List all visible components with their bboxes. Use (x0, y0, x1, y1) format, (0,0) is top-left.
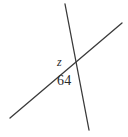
angle-label-64: 64 (57, 74, 71, 88)
intersecting-lines-figure (0, 0, 128, 137)
geometry-diagram-canvas: z 64 (0, 0, 128, 137)
angle-label-z: z (57, 56, 62, 68)
diagram-background (0, 0, 128, 137)
